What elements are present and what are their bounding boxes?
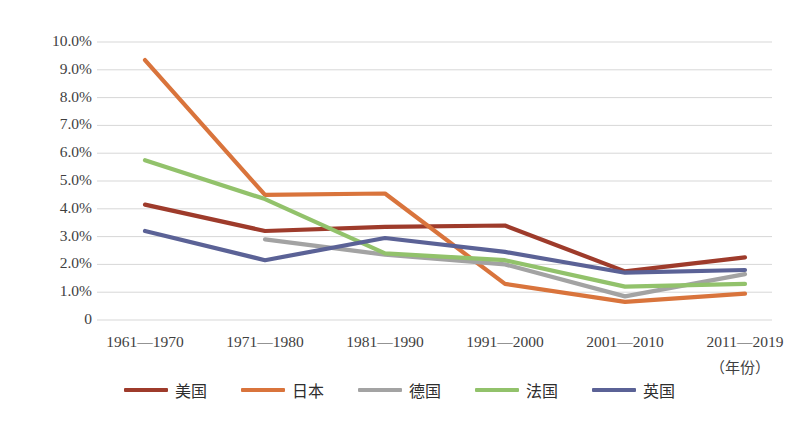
legend-item-德国[interactable]: 德国 (358, 378, 441, 402)
legend-item-法国[interactable]: 法国 (475, 378, 558, 402)
legend-label: 德国 (409, 378, 441, 402)
y-axis-tick-label: 8.0% (20, 89, 92, 105)
chart-legend: 美国日本德国法国英国 (0, 378, 798, 402)
legend-color-swatch (124, 388, 168, 392)
chart-plot-area (0, 0, 798, 428)
y-axis-tick-label: 0 (20, 311, 92, 327)
y-axis-tick-label: 10.0% (20, 33, 92, 49)
x-axis-tick-labels: 1961—19701971—19801981—19901991—20002001… (0, 329, 798, 357)
line-chart: 10.0%9.0%8.0%7.0%6.0%5.0%4.0%3.0%2.0%1.0… (0, 0, 798, 428)
x-axis-tick-label: 2011—2019 (685, 333, 798, 351)
x-axis-tick-label: 1961—1970 (85, 333, 205, 351)
legend-label: 日本 (292, 378, 324, 402)
y-axis-tick-label: 9.0% (20, 61, 92, 77)
legend-label: 美国 (175, 378, 207, 402)
legend-label: 法国 (526, 378, 558, 402)
legend-color-swatch (592, 388, 636, 392)
y-axis-tick-label: 2.0% (20, 255, 92, 271)
legend-color-swatch (241, 388, 285, 392)
y-axis-tick-label: 5.0% (20, 172, 92, 188)
y-axis-tick-label: 7.0% (20, 116, 92, 132)
x-axis-tick-label: 1991—2000 (445, 333, 565, 351)
x-axis-unit-note: （年份） (710, 356, 770, 377)
y-axis-tick-label: 3.0% (20, 228, 92, 244)
legend-item-英国[interactable]: 英国 (592, 378, 675, 402)
y-axis-tick-label: 1.0% (20, 283, 92, 299)
x-axis-tick-label: 1981—1990 (325, 333, 445, 351)
legend-color-swatch (358, 388, 402, 392)
legend-color-swatch (475, 388, 519, 392)
x-axis-tick-label: 2001—2010 (565, 333, 685, 351)
legend-label: 英国 (643, 378, 675, 402)
x-axis-tick-label: 1971—1980 (205, 333, 325, 351)
legend-item-美国[interactable]: 美国 (124, 378, 207, 402)
y-axis-tick-labels: 10.0%9.0%8.0%7.0%6.0%5.0%4.0%3.0%2.0%1.0… (20, 0, 92, 428)
legend-item-日本[interactable]: 日本 (241, 378, 324, 402)
y-axis-tick-label: 6.0% (20, 144, 92, 160)
gridlines (97, 42, 772, 320)
y-axis-tick-label: 4.0% (20, 200, 92, 216)
